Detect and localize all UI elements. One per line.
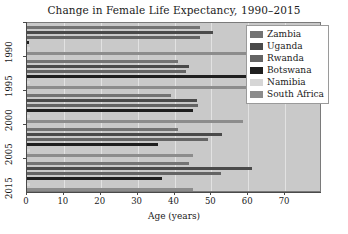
- x-tick-mark-60: [247, 192, 248, 195]
- y-tick-label-2005: 2005: [4, 143, 14, 165]
- x-tick-mark-30: [137, 192, 138, 195]
- x-tick-label-60: 60: [242, 196, 253, 206]
- x-tick-mark-70: [284, 192, 285, 195]
- bar-south-africa-2015: [27, 188, 193, 191]
- x-tick-label-70: 70: [279, 196, 290, 206]
- bar-zambia-2015: [27, 162, 189, 165]
- bar-uganda-1990: [27, 31, 213, 34]
- bar-zambia-2005: [27, 128, 178, 131]
- y-tick-label-2015: 2015: [4, 177, 14, 199]
- y-axis-line: [26, 22, 27, 192]
- x-tick-mark-0: [26, 192, 27, 195]
- x-tick-label-10: 10: [57, 196, 68, 206]
- legend-item-zambia: Zambia: [250, 28, 324, 40]
- bar-rwanda-1995: [27, 70, 186, 73]
- legend-swatch-rwanda: [250, 55, 263, 62]
- legend-swatch-namibia: [250, 79, 263, 86]
- x-tick-label-40: 40: [168, 196, 179, 206]
- bar-namibia-1995: [27, 81, 30, 84]
- bar-rwanda-2005: [27, 138, 208, 141]
- x-tick-mark-50: [210, 192, 211, 195]
- bar-zambia-2000: [27, 94, 171, 97]
- x-tick-mark-10: [63, 192, 64, 195]
- y-tick-mark-2005: [23, 124, 26, 125]
- x-tick-label-0: 0: [23, 196, 28, 206]
- bar-rwanda-2015: [27, 172, 221, 175]
- legend-item-rwanda: Rwanda: [250, 52, 324, 64]
- legend-label: Rwanda: [267, 53, 304, 64]
- bar-uganda-2005: [27, 133, 222, 136]
- legend-label: Uganda: [267, 41, 303, 52]
- legend-item-botswana: Botswana: [250, 64, 324, 76]
- chart-figure: Change in Female Life Expectancy, 1990–2…: [0, 0, 348, 234]
- x-axis-label: Age (years): [0, 211, 348, 221]
- y-tick-mark-1990: [23, 22, 26, 23]
- bar-rwanda-2000: [27, 104, 198, 107]
- bar-zambia-1995: [27, 60, 178, 63]
- bar-botswana-1995: [27, 75, 267, 78]
- legend-swatch-uganda: [250, 43, 263, 50]
- bar-south-africa-1990: [27, 52, 274, 55]
- legend-swatch-botswana: [250, 67, 263, 74]
- chart-legend: ZambiaUgandaRwandaBotswanaNamibiaSouth A…: [246, 25, 329, 104]
- legend-item-uganda: Uganda: [250, 40, 324, 52]
- y-tick-label-1995: 1995: [4, 75, 14, 97]
- x-tick-label-50: 50: [205, 196, 216, 206]
- bar-zambia-1990: [27, 26, 200, 29]
- bar-south-africa-1995: [27, 86, 269, 89]
- x-tick-label-30: 30: [131, 196, 142, 206]
- y-tick-label-2000: 2000: [4, 109, 14, 131]
- bar-namibia-1990: [27, 47, 30, 50]
- y-tick-mark-1995: [23, 56, 26, 57]
- chart-title: Change in Female Life Expectancy, 1990–2…: [0, 4, 348, 16]
- gridline-x-50: [211, 23, 212, 191]
- bar-botswana-1990: [27, 41, 29, 44]
- bar-uganda-1995: [27, 65, 189, 68]
- x-tick-mark-20: [100, 192, 101, 195]
- legend-label: South Africa: [267, 89, 324, 100]
- x-tick-label-20: 20: [94, 196, 105, 206]
- bar-botswana-2000: [27, 109, 193, 112]
- bar-uganda-2015: [27, 167, 252, 170]
- bar-uganda-2000: [27, 99, 197, 102]
- legend-label: Namibia: [267, 77, 306, 88]
- y-tick-label-1990: 1990: [4, 41, 14, 63]
- legend-label: Zambia: [267, 29, 301, 40]
- legend-item-namibia: Namibia: [250, 76, 324, 88]
- y-tick-mark-2000: [23, 90, 26, 91]
- legend-swatch-south-africa: [250, 91, 263, 98]
- legend-item-south-africa: South Africa: [250, 88, 324, 100]
- bar-rwanda-1990: [27, 36, 200, 39]
- bar-south-africa-2000: [27, 120, 243, 123]
- x-tick-mark-40: [174, 192, 175, 195]
- bar-south-africa-2005: [27, 154, 193, 157]
- bar-namibia-2000: [27, 115, 30, 118]
- y-tick-mark-2015: [23, 158, 26, 159]
- bar-botswana-2015: [27, 177, 162, 180]
- bar-namibia-2015: [27, 183, 30, 186]
- legend-swatch-zambia: [250, 31, 263, 38]
- bar-namibia-2005: [27, 149, 30, 152]
- legend-label: Botswana: [267, 65, 312, 76]
- bar-botswana-2005: [27, 143, 158, 146]
